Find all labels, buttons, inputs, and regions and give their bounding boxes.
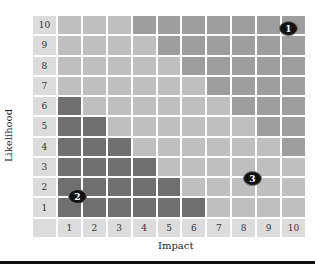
matrix-cell — [282, 198, 305, 216]
matrix-cell — [182, 138, 205, 156]
x-tick-label: 5 — [158, 219, 181, 237]
matrix-cell — [58, 16, 81, 34]
matrix-cell — [158, 198, 181, 216]
x-tick-label: 9 — [257, 219, 280, 237]
matrix-cell — [83, 117, 106, 135]
matrix-cell — [207, 178, 230, 196]
x-tick-label: 7 — [207, 219, 230, 237]
risk-matrix: 1098765432112345678910 — [33, 16, 305, 237]
y-tick-label: 4 — [33, 138, 56, 156]
matrix-cell — [158, 117, 181, 135]
y-tick-label: 2 — [33, 178, 56, 196]
matrix-cell — [133, 117, 156, 135]
matrix-cell — [83, 36, 106, 54]
matrix-cell — [207, 36, 230, 54]
matrix-cell — [133, 36, 156, 54]
matrix-cell — [207, 57, 230, 75]
matrix-cell — [182, 198, 205, 216]
matrix-cell — [108, 77, 131, 95]
matrix-cell — [58, 158, 81, 176]
y-tick-label: 9 — [33, 36, 56, 54]
matrix-cell — [232, 198, 255, 216]
matrix-cell — [257, 97, 280, 115]
matrix-cell — [58, 36, 81, 54]
x-tick-label: 1 — [58, 219, 81, 237]
matrix-cell — [58, 77, 81, 95]
matrix-cell — [282, 36, 305, 54]
matrix-cell — [158, 57, 181, 75]
matrix-cell — [133, 57, 156, 75]
matrix-cell — [207, 117, 230, 135]
matrix-cell — [133, 138, 156, 156]
x-tick-label: 2 — [83, 219, 106, 237]
matrix-cell — [257, 77, 280, 95]
matrix-cell — [133, 16, 156, 34]
risk-marker: 1 — [279, 21, 298, 36]
matrix-cell — [83, 158, 106, 176]
matrix-cell — [158, 178, 181, 196]
matrix-cell — [282, 158, 305, 176]
matrix-cell — [108, 138, 131, 156]
matrix-cell — [108, 97, 131, 115]
matrix-cell — [232, 97, 255, 115]
y-tick-label: 10 — [33, 16, 56, 34]
x-tick-label: 4 — [133, 219, 156, 237]
matrix-cell — [257, 158, 280, 176]
matrix-cell — [158, 158, 181, 176]
matrix-cell — [182, 57, 205, 75]
matrix-cell — [257, 16, 280, 34]
matrix-cell — [282, 178, 305, 196]
matrix-cell — [58, 57, 81, 75]
matrix-cell — [108, 178, 131, 196]
matrix-cell — [207, 158, 230, 176]
risk-marker: 2 — [68, 189, 87, 204]
matrix-cell — [133, 77, 156, 95]
matrix-cell — [83, 16, 106, 34]
corner-cell — [33, 219, 56, 237]
x-tick-label: 3 — [108, 219, 131, 237]
matrix-cell — [133, 158, 156, 176]
x-tick-label: 8 — [232, 219, 255, 237]
matrix-cell — [58, 117, 81, 135]
matrix-cell — [232, 138, 255, 156]
matrix-cell — [282, 138, 305, 156]
matrix-cell — [282, 97, 305, 115]
matrix-cell — [257, 36, 280, 54]
y-tick-label: 1 — [33, 198, 56, 216]
matrix-cell — [182, 117, 205, 135]
matrix-cell — [133, 178, 156, 196]
y-tick-label: 7 — [33, 77, 56, 95]
matrix-cell — [257, 57, 280, 75]
matrix-cell — [108, 36, 131, 54]
matrix-cell — [83, 57, 106, 75]
matrix-cell — [182, 36, 205, 54]
matrix-cell — [232, 16, 255, 34]
matrix-cell — [108, 198, 131, 216]
matrix-cell — [83, 198, 106, 216]
risk-marker: 3 — [243, 171, 262, 186]
y-tick-label: 5 — [33, 117, 56, 135]
matrix-cell — [257, 198, 280, 216]
y-tick-label: 6 — [33, 97, 56, 115]
matrix-cell — [232, 57, 255, 75]
matrix-cell — [83, 77, 106, 95]
matrix-cell — [158, 138, 181, 156]
matrix-cell — [207, 77, 230, 95]
x-tick-label: 10 — [282, 219, 305, 237]
matrix-cell — [182, 158, 205, 176]
matrix-cell — [282, 117, 305, 135]
y-axis-label: Likelihood — [2, 90, 16, 180]
matrix-cell — [182, 178, 205, 196]
matrix-cell — [108, 57, 131, 75]
matrix-cell — [232, 77, 255, 95]
matrix-cell — [207, 138, 230, 156]
matrix-cell — [257, 138, 280, 156]
y-tick-label: 8 — [33, 57, 56, 75]
y-axis-label-text: Likelihood — [4, 108, 15, 161]
matrix-cell — [232, 117, 255, 135]
matrix-cell — [282, 57, 305, 75]
matrix-cell — [158, 36, 181, 54]
matrix-cell — [207, 198, 230, 216]
matrix-cell — [108, 16, 131, 34]
matrix-cell — [207, 16, 230, 34]
